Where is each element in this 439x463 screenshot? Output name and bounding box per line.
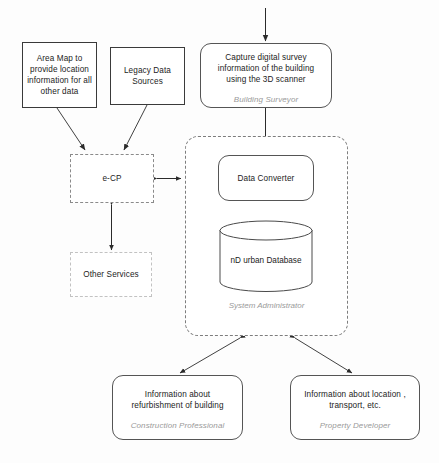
node-nd-urban-database[interactable]: nD urban Database xyxy=(219,220,313,292)
connector-system-to-location xyxy=(295,338,352,373)
node-location-information-role: Property Developer xyxy=(320,420,391,431)
diagram-canvas: System Administrator Area Map to provide… xyxy=(0,0,439,463)
node-area-map-label: Area Map to provide location information… xyxy=(27,53,92,97)
node-area-map[interactable]: Area Map to provide location information… xyxy=(22,42,97,108)
connector-legacy-to-ecp xyxy=(124,105,147,150)
connector-system-to-refurbishment xyxy=(180,338,240,373)
node-ecp[interactable]: e-CP xyxy=(70,154,154,203)
node-data-converter-label: Data Converter xyxy=(238,173,295,184)
connector-area-map-to-ecp xyxy=(57,108,85,150)
node-refurbishment-information-role: Construction Professional xyxy=(131,420,225,431)
node-location-information-label: Information about location , transport, … xyxy=(298,389,412,411)
node-capture-digital-survey-role: Building Surveyor xyxy=(234,94,298,105)
node-capture-digital-survey[interactable]: Capture digital survey information of th… xyxy=(200,43,332,108)
node-legacy-data-sources-label: Legacy Data Sources xyxy=(115,65,180,87)
node-data-converter[interactable]: Data Converter xyxy=(218,155,314,201)
node-ecp-label: e-CP xyxy=(102,173,121,184)
node-nd-urban-database-label: nD urban Database xyxy=(219,256,313,265)
node-other-services-label: Other Services xyxy=(83,269,139,280)
node-refurbishment-information[interactable]: Information about refurbishment of build… xyxy=(112,375,243,440)
node-legacy-data-sources[interactable]: Legacy Data Sources xyxy=(110,47,185,105)
node-location-information[interactable]: Information about location , transport, … xyxy=(290,375,420,440)
system-administrator-role-label: System Administrator xyxy=(185,301,348,310)
node-other-services[interactable]: Other Services xyxy=(70,252,152,297)
node-refurbishment-information-label: Information about refurbishment of build… xyxy=(120,389,235,411)
node-capture-digital-survey-label: Capture digital survey information of th… xyxy=(208,52,324,85)
